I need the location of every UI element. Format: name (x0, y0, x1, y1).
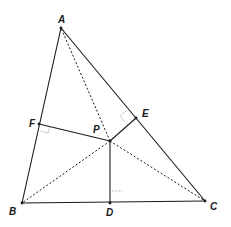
segment-pe (110, 118, 136, 141)
side-bc (22, 201, 205, 203)
right-angle-mark-e (120, 111, 126, 122)
point-a (60, 27, 63, 30)
label-b: B (9, 206, 16, 217)
label-c: C (210, 201, 218, 212)
point-b (21, 202, 24, 205)
label-p: P (93, 124, 100, 135)
point-c (204, 200, 207, 203)
geometry-diagram: A B C D E F P (0, 0, 231, 227)
dashed-pa (61, 28, 110, 141)
side-ca (61, 28, 205, 201)
point-e (135, 117, 138, 120)
label-f: F (29, 118, 36, 129)
label-e: E (142, 108, 149, 119)
right-angle-mark-f (41, 126, 50, 133)
label-d: D (106, 207, 113, 218)
dashed-pb (22, 141, 110, 203)
dashed-pc (110, 141, 205, 201)
side-ab (22, 28, 61, 203)
point-f (38, 123, 41, 126)
point-d (109, 202, 112, 205)
point-p (109, 140, 112, 143)
label-a: A (57, 14, 65, 25)
